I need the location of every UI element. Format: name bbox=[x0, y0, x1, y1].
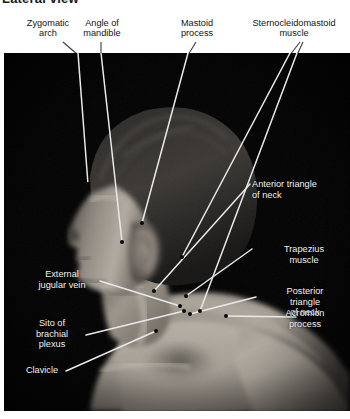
overlay-label-site-of-brachial-plexus: Sito of brachial plexus bbox=[18, 318, 86, 350]
overlay-label-clavicle: Clavicle bbox=[14, 365, 70, 376]
overlay-label-trapezius-muscle: Trapezius muscle bbox=[260, 244, 348, 265]
overlay-label-external-jugular-vein: External jugular vein bbox=[20, 269, 104, 290]
header-label-angle-of-mandible: Angle of mandible bbox=[66, 18, 138, 39]
overlay-label-anterior-triangle-of-neck: Anterior triangle of neck bbox=[252, 179, 348, 200]
header-label-mastoid-process: Mastoid process bbox=[161, 18, 233, 39]
photo-artwork bbox=[4, 53, 350, 411]
footer-strip bbox=[0, 411, 350, 419]
overlay-label-acromion-process: Acromion process bbox=[262, 308, 348, 329]
anatomy-photograph: Anterior triangle of neck Trapezius musc… bbox=[4, 53, 350, 411]
header-label-sternocleidomastoid-muscle: Sternocleidomastoid muscle bbox=[238, 18, 350, 39]
